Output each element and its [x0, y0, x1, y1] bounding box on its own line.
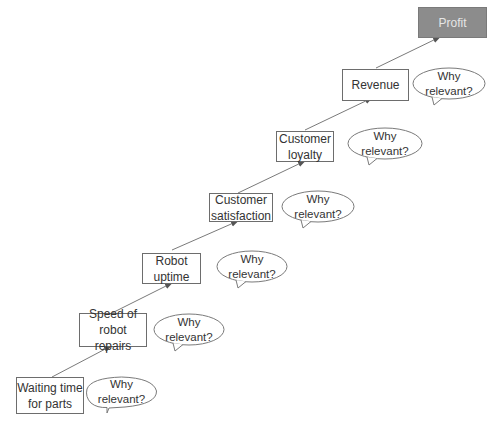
- bubble-text: Why: [361, 129, 408, 144]
- bubble-text: Why: [98, 377, 145, 392]
- arrow-revenue-to-profit: [376, 37, 440, 68]
- bubble-text: relevant?: [425, 84, 472, 99]
- callout-bubble-waiting: Whyrelevant?: [85, 375, 158, 409]
- node-robot-uptime: Robotuptime: [142, 253, 201, 284]
- node-label: Customer: [279, 131, 331, 147]
- node-label: loyalty: [279, 147, 331, 163]
- bubble-text: Why: [425, 69, 472, 84]
- callout-bubble-speed: Whyrelevant?: [153, 313, 225, 347]
- arrow-satisfaction-to-loyalty: [238, 161, 305, 193]
- bubble-text: relevant?: [165, 330, 212, 345]
- callout-bubble-uptime: Whyrelevant?: [216, 250, 288, 284]
- node-speed-of-robot-repairs: Speed ofrobot repairs: [79, 313, 147, 347]
- callout-bubble-revenue: Whyrelevant?: [412, 67, 486, 101]
- bubble-text: Why: [294, 192, 341, 207]
- node-label: Waiting time: [17, 380, 83, 396]
- node-revenue: Revenue: [342, 69, 409, 101]
- arrow-loyalty-to-revenue: [305, 98, 372, 130]
- bubble-text: relevant?: [228, 267, 275, 282]
- node-label: uptime: [153, 269, 189, 285]
- node-profit: Profit: [418, 7, 487, 38]
- bubble-text: Why: [165, 315, 212, 330]
- node-waiting-time-for-parts: Waiting timefor parts: [16, 377, 84, 414]
- arrow-uptime-to-satisfaction: [172, 221, 238, 250]
- bubble-text: relevant?: [98, 392, 145, 407]
- node-label: Speed of: [80, 306, 146, 322]
- node-label: Robot: [153, 253, 189, 269]
- node-customer-loyalty: Customerloyalty: [276, 131, 334, 162]
- node-label: Revenue: [351, 77, 399, 93]
- bubble-text: relevant?: [294, 207, 341, 222]
- node-label: for parts: [17, 396, 83, 412]
- bubble-text: relevant?: [361, 144, 408, 159]
- callout-bubble-satisfaction: Whyrelevant?: [281, 190, 355, 224]
- bubble-text: Why: [228, 252, 275, 267]
- node-customer-satisfaction: Customersatisfaction: [209, 193, 273, 222]
- callout-bubble-loyalty: Whyrelevant?: [347, 127, 423, 161]
- node-label: robot repairs: [80, 322, 146, 354]
- node-label: satisfaction: [211, 208, 271, 224]
- node-label: Profit: [438, 15, 466, 31]
- node-label: Customer: [211, 192, 271, 208]
